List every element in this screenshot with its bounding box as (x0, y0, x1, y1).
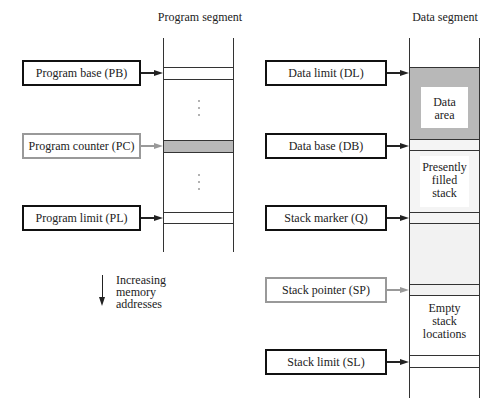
register-data-limit: Data limit (DL) (265, 60, 387, 86)
register-stack-limit: Stack limit (SL) (265, 349, 387, 375)
empty-stack-region: Empty stack locations (410, 296, 479, 355)
data-segment-title: Data segment (390, 10, 498, 25)
db-slot (410, 139, 479, 151)
down-arrow-icon (101, 275, 105, 307)
register-program-limit: Program limit (PL) (22, 205, 141, 231)
ellipsis-icon (198, 174, 201, 195)
program-segment-title: Program segment (140, 10, 260, 25)
empty-stack-label: Empty stack locations (410, 302, 479, 341)
pb-slot-top (164, 67, 233, 68)
presently-filled-stack-label: Presently filled stack (410, 161, 479, 200)
register-data-base: Data base (DB) (265, 133, 387, 159)
q-slot (410, 212, 479, 224)
increasing-addresses-note: Increasing memory addresses (116, 274, 166, 310)
register-program-base: Program base (PB) (22, 60, 141, 86)
pc-slot (164, 140, 233, 153)
register-stack-marker: Stack marker (Q) (265, 205, 387, 231)
pb-slot-bottom (164, 79, 233, 80)
data-area-label: Data area (410, 96, 479, 122)
register-program-counter: Program counter (PC) (22, 133, 141, 159)
pl-slot-bottom (164, 223, 233, 224)
program-segment-column (163, 38, 234, 252)
sl-slot-top (410, 355, 479, 356)
pl-slot-top (164, 212, 233, 213)
register-stack-pointer: Stack pointer (SP) (265, 277, 387, 303)
sl-slot-bottom (410, 367, 479, 368)
presently-filled-stack-region: Presently filled stack (410, 151, 479, 212)
sp-slot (410, 284, 479, 296)
ellipsis-icon (198, 100, 201, 121)
stack-frame-region (410, 224, 479, 284)
data-area-region: Data area (410, 79, 479, 139)
data-segment-column: Data area Presently filled stack Empty s… (409, 38, 480, 398)
